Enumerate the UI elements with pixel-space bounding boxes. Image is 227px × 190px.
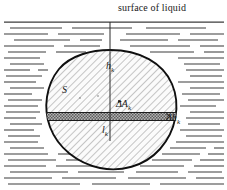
diagram-canvas — [0, 0, 227, 190]
liquid-pressure-diagram: surface of liquid hk S ΔAk Δhk lk — [0, 0, 227, 190]
body-dot-marker — [79, 97, 80, 98]
submerged-body — [46, 50, 176, 169]
element-strip — [30, 113, 200, 121]
body-dot-marker — [97, 95, 98, 96]
strip-fill — [30, 113, 200, 121]
